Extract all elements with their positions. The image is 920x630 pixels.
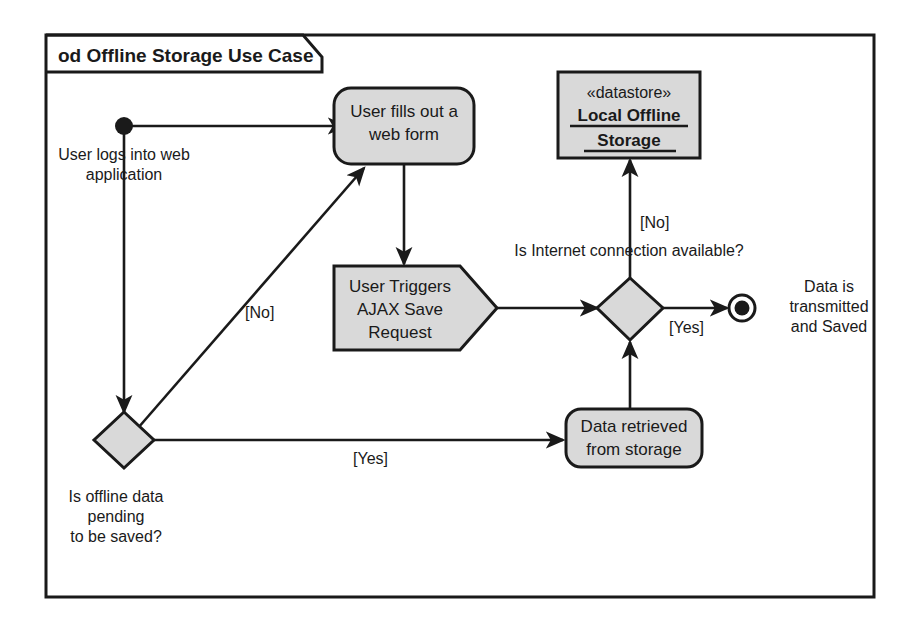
datastore-name-line1: Local Offline bbox=[578, 106, 681, 125]
final-note-line3: and Saved bbox=[791, 318, 868, 335]
final-note-line2: transmitted bbox=[789, 298, 868, 315]
pending-decision-line1: Is offline data bbox=[69, 488, 164, 505]
final-node bbox=[729, 295, 755, 321]
pending-decision-line2: pending bbox=[88, 508, 145, 525]
guard-pending-no: [No] bbox=[245, 304, 274, 321]
datastore-local-offline-storage[interactable]: «datastore» Local Offline Storage bbox=[558, 72, 700, 158]
datastore-stereotype: «datastore» bbox=[587, 84, 672, 101]
activity-data-retrieved-line2: from storage bbox=[586, 440, 681, 459]
activity-data-retrieved-line1: Data retrieved bbox=[581, 417, 688, 436]
activity-web-form-line2: web form bbox=[368, 125, 439, 144]
login-note-line1: User logs into web bbox=[58, 146, 190, 163]
diagram-canvas: od Offline Storage Use Case User logs in… bbox=[0, 0, 920, 630]
decision-offline-data-pending-label: Is offline data pending to be saved? bbox=[69, 488, 164, 545]
activity-data-retrieved[interactable]: Data retrieved from storage bbox=[566, 409, 702, 467]
final-note: Data is transmitted and Saved bbox=[789, 278, 868, 335]
final-note-line1: Data is bbox=[804, 278, 854, 295]
initial-node bbox=[115, 117, 133, 135]
pending-decision-line3: to be saved? bbox=[70, 528, 162, 545]
edge-pending-no-to-webform bbox=[138, 168, 364, 428]
datastore-name-line2: Storage bbox=[597, 131, 660, 150]
guard-internet-no: [No] bbox=[640, 214, 669, 231]
guard-internet-yes: [Yes] bbox=[669, 319, 704, 336]
activity-ajax-line1: User Triggers bbox=[349, 277, 451, 296]
login-note-line2: application bbox=[86, 166, 163, 183]
decision-internet-available[interactable] bbox=[597, 278, 663, 340]
decision-internet-available-label: Is Internet connection available? bbox=[514, 242, 744, 259]
activity-ajax-line2: AJAX Save bbox=[357, 300, 443, 319]
activity-web-form-line1: User fills out a bbox=[350, 102, 458, 121]
frame-label: od Offline Storage Use Case bbox=[58, 45, 314, 66]
guard-pending-yes: [Yes] bbox=[353, 450, 388, 467]
activity-ajax-save-request[interactable]: User Triggers AJAX Save Request bbox=[334, 266, 497, 350]
activity-ajax-line3: Request bbox=[368, 323, 432, 342]
activity-web-form[interactable]: User fills out a web form bbox=[334, 88, 474, 164]
